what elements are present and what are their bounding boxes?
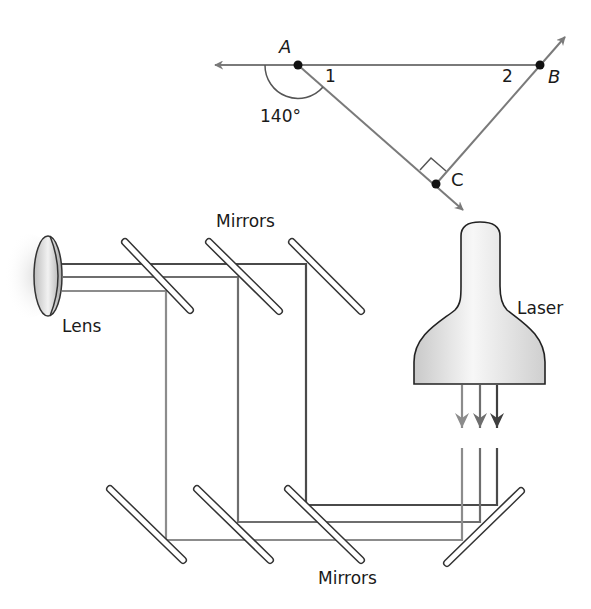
exterior-angle-arc bbox=[265, 65, 323, 98]
diagram-canvas: A B C 1 2 140° Mirrors Lens Laser Mirror… bbox=[0, 0, 591, 609]
vertex-c-dot bbox=[432, 180, 441, 189]
lens bbox=[0, 234, 62, 318]
vertex-b-dot bbox=[536, 61, 545, 70]
laser bbox=[414, 222, 545, 428]
mirror-bottom-1-fill bbox=[110, 489, 183, 560]
vertex-b-label: B bbox=[548, 68, 560, 86]
angle-1-label: 1 bbox=[325, 68, 336, 85]
mirror-bottom-3-fill bbox=[288, 489, 361, 560]
diagram-svg bbox=[0, 0, 591, 609]
mirror-top-3-fill bbox=[292, 242, 361, 311]
mirror-bottom-right-fill bbox=[447, 491, 521, 563]
angle-2-label: 2 bbox=[502, 68, 513, 85]
right-angle-marker bbox=[420, 158, 446, 171]
vertex-a-dot bbox=[294, 61, 303, 70]
laser-label: Laser bbox=[517, 300, 563, 317]
mirror-bottom-2-fill bbox=[197, 489, 270, 560]
beam-paths bbox=[62, 264, 497, 540]
line-cb-ray bbox=[436, 37, 565, 184]
mirrors-top bbox=[125, 242, 361, 311]
line-ac-ray bbox=[298, 65, 463, 210]
mirrors-bottom-label: Mirrors bbox=[318, 570, 377, 587]
vertex-c-label: C bbox=[451, 171, 464, 189]
exterior-angle-label: 140° bbox=[260, 108, 301, 125]
mirrors-bottom bbox=[110, 489, 521, 563]
vertex-a-label: A bbox=[279, 38, 291, 56]
beam-mid bbox=[62, 277, 480, 522]
lens-label: Lens bbox=[62, 318, 101, 335]
mirrors-top-label: Mirrors bbox=[216, 213, 275, 230]
